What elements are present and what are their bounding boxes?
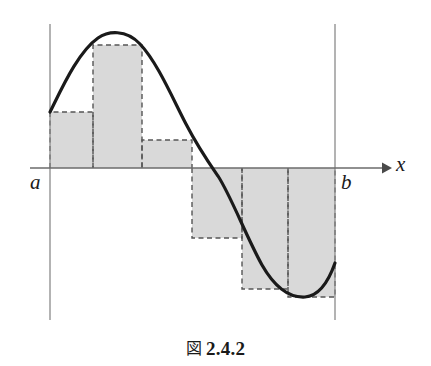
rect-fill-4: [192, 168, 242, 238]
caption-kanji-zu: 図: [186, 339, 206, 358]
endpoint-label-b: b: [341, 172, 352, 193]
rect-fill-1: [50, 112, 93, 168]
figure-caption: 図2.4.2: [0, 336, 431, 360]
riemann-sum-figure: [0, 0, 431, 366]
rect-fill-3: [142, 140, 192, 168]
caption-number: 2.4.2: [206, 338, 246, 359]
endpoint-label-a: a: [30, 172, 41, 193]
axis-label-x: x: [396, 154, 405, 175]
x-axis-arrow-icon: [382, 163, 392, 174]
figure-container: a b x 図2.4.2: [0, 0, 431, 366]
rect-fill-2: [93, 45, 142, 168]
